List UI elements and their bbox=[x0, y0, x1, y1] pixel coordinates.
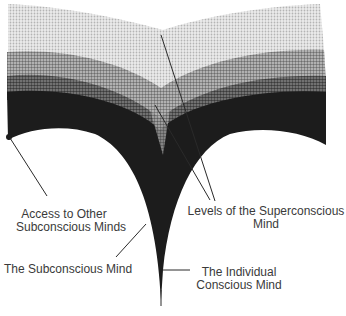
leader-line-access-other bbox=[10, 138, 47, 196]
label-line-2: Mind bbox=[186, 218, 346, 231]
label-line-2: Subconscious Minds bbox=[16, 221, 112, 234]
label-line-2: Conscious Mind bbox=[196, 279, 282, 292]
label-levels-superconscious: Levels of the Superconscious Mind bbox=[186, 205, 346, 231]
label-individual-conscious-mind: The Individual Conscious Mind bbox=[196, 266, 282, 292]
label-access-other-subconscious: Access to Other Subconscious Minds bbox=[16, 208, 112, 234]
label-line-1: The Subconscious Mind bbox=[4, 263, 132, 276]
label-subconscious-mind: The Subconscious Mind bbox=[4, 263, 132, 276]
